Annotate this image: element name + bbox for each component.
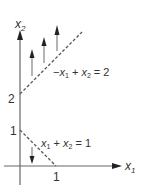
diagram-canvas: x2 x1 2 1 1 −x1 + x2 = 2 x1 + x2 = 1 bbox=[0, 0, 143, 191]
feasible-direction-arrows-down bbox=[30, 147, 35, 164]
arrow-up-icon bbox=[30, 49, 35, 58]
arrow-up-icon bbox=[42, 37, 47, 46]
constraint-label-2: x1 + x2 = 1 bbox=[40, 137, 91, 150]
y-tick-1: 1 bbox=[10, 124, 17, 138]
x-tick-1: 1 bbox=[53, 170, 60, 184]
arrow-down-icon bbox=[30, 156, 35, 164]
y-tick-2: 2 bbox=[8, 92, 15, 106]
constraint-label-1: −x1 + x2 = 2 bbox=[53, 66, 109, 79]
x-axis-arrowhead-icon bbox=[112, 163, 122, 169]
x-axis bbox=[4, 163, 122, 169]
x-axis-label: x1 bbox=[124, 159, 135, 175]
arrow-up-icon bbox=[55, 25, 60, 35]
y-axis-label: x2 bbox=[14, 17, 26, 33]
y-axis bbox=[17, 30, 23, 185]
constraint-line-1 bbox=[20, 32, 82, 94]
